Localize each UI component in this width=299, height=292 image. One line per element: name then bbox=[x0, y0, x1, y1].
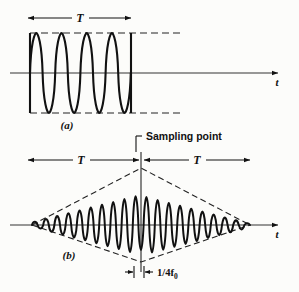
panel-caption-a: (a) bbox=[61, 119, 74, 132]
period-label-b-left: T bbox=[77, 153, 85, 167]
period-arrow-b-right: T bbox=[144, 153, 250, 167]
time-axis-label-b: t bbox=[275, 228, 279, 240]
time-axis-label-a: t bbox=[275, 76, 279, 88]
period-arrow-a: T bbox=[28, 11, 131, 25]
period-label-a: T bbox=[76, 11, 84, 25]
pulse-width-label-main: 1/4f bbox=[157, 267, 174, 278]
pulse-width-label-subscript: 0 bbox=[174, 272, 178, 281]
pulse-width-annotation: 1/4f0 bbox=[125, 266, 178, 281]
sampling-point-annotation: Sampling point bbox=[136, 130, 222, 152]
sampling-point-label: Sampling point bbox=[146, 130, 222, 142]
panel-a: T t (a) bbox=[10, 11, 279, 132]
signal-waveform-figure: T t (a) Sampling point T bbox=[0, 0, 299, 292]
panel-caption-b: (b) bbox=[63, 249, 76, 262]
figure-container: T t (a) Sampling point T bbox=[0, 0, 299, 292]
pulse-width-label: 1/4f0 bbox=[157, 267, 178, 281]
period-arrow-b-left: T bbox=[28, 153, 139, 167]
panel-b: Sampling point T T t (b) bbox=[10, 130, 279, 281]
period-label-b-right: T bbox=[193, 153, 201, 167]
